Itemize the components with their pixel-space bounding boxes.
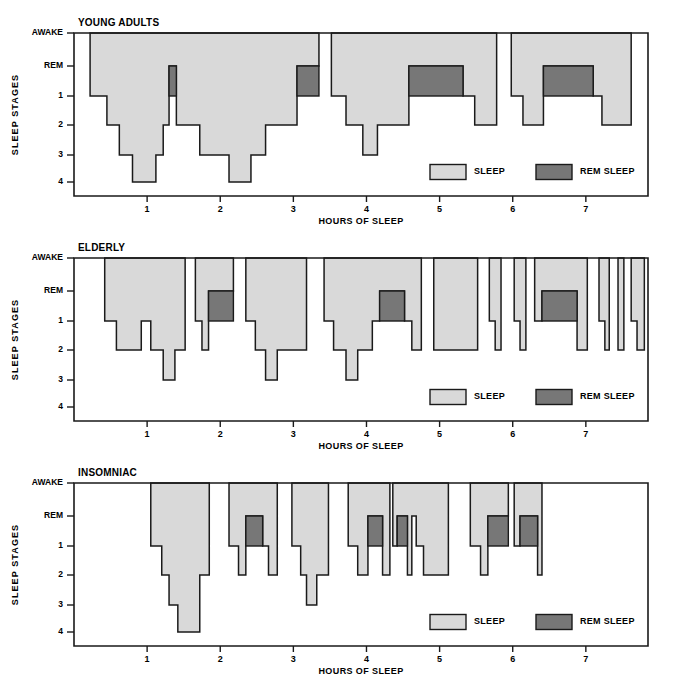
sleep-period-area [434,258,478,350]
x-tick-label-5: 5 [437,654,442,664]
rem-sleep-block [246,516,263,546]
rem-sleep-block [542,291,577,321]
hypnogram-panel-young-adults: AWAKEREM12341234567HOURS OF SLEEPSLEEP S… [0,0,673,225]
x-tick-label-5: 5 [437,204,442,214]
y-axis-title: SLEEP STAGES [10,524,20,605]
x-axis-title: HOURS OF SLEEP [318,666,403,675]
rem-sleep-block [488,516,508,546]
legend-swatch-sleep [430,165,466,180]
sleep-period-area [489,258,501,350]
sleep-period-area [514,258,526,350]
sleep-period-area [631,258,644,350]
legend-label-sleep: SLEEP [474,616,505,626]
legend-label-sleep: SLEEP [474,391,505,401]
hypnogram-chart-0: AWAKEREM12341234567HOURS OF SLEEPSLEEP S… [0,0,673,225]
hypnogram-chart-2: AWAKEREM12341234567HOURS OF SLEEPSLEEP S… [0,450,673,675]
x-tick-label-4: 4 [364,204,369,214]
rem-sleep-block [397,516,407,546]
legend-swatch-rem-sleep [536,615,572,630]
x-tick-label-6: 6 [510,654,515,664]
y-tick-label-3: 3 [58,599,63,609]
y-tick-label-3: 3 [58,374,63,384]
y-tick-label-4: 4 [58,401,63,411]
x-tick-label-7: 7 [583,204,588,214]
x-tick-label-2: 2 [218,429,223,439]
x-tick-label-7: 7 [583,429,588,439]
x-tick-label-6: 6 [510,204,515,214]
y-tick-label-1: 1 [58,540,63,550]
hypnogram-panel-insomniac: AWAKEREM12341234567HOURS OF SLEEPSLEEP S… [0,450,673,675]
rem-sleep-block [520,516,538,546]
x-tick-label-7: 7 [583,654,588,664]
legend-swatch-rem-sleep [536,390,572,405]
x-tick-label-3: 3 [291,654,296,664]
rem-sleep-block [409,66,463,96]
y-tick-label-4: 4 [58,176,63,186]
y-tick-label-rem: REM [44,285,63,295]
sleep-period-area [599,258,609,350]
y-tick-label-1: 1 [58,315,63,325]
y-tick-label-3: 3 [58,149,63,159]
rem-sleep-block [543,66,593,96]
y-tick-label-awake: AWAKE [32,27,64,37]
sleep-period-area [246,258,307,380]
x-tick-label-6: 6 [510,429,515,439]
y-tick-label-awake: AWAKE [32,252,64,262]
x-tick-label-3: 3 [291,204,296,214]
sleep-period-area [151,483,209,632]
y-tick-label-2: 2 [58,119,63,129]
sleep-period-area [90,33,319,182]
legend-label-rem-sleep: REM SLEEP [580,391,635,401]
sleep-stages-figure: AWAKEREM12341234567HOURS OF SLEEPSLEEP S… [0,0,673,676]
x-axis-title: HOURS OF SLEEP [318,216,403,225]
rem-sleep-block [209,291,234,321]
legend-label-rem-sleep: REM SLEEP [580,166,635,176]
y-tick-label-rem: REM [44,60,63,70]
x-tick-label-2: 2 [218,204,223,214]
x-tick-label-4: 4 [364,654,369,664]
rem-sleep-block [380,291,405,321]
x-tick-label-1: 1 [145,654,150,664]
x-tick-label-1: 1 [145,204,150,214]
y-tick-label-awake: AWAKE [32,477,64,487]
y-tick-label-2: 2 [58,569,63,579]
y-tick-label-2: 2 [58,344,63,354]
panel-title: YOUNG ADULTS [78,17,159,28]
legend-swatch-sleep [430,390,466,405]
x-tick-label-3: 3 [291,429,296,439]
y-tick-label-1: 1 [58,90,63,100]
y-tick-label-4: 4 [58,626,63,636]
sleep-period-area [324,258,421,380]
x-tick-label-4: 4 [364,429,369,439]
rem-sleep-block [169,66,176,96]
legend-swatch-sleep [430,615,466,630]
x-axis-title: HOURS OF SLEEP [318,441,403,450]
sleep-period-area [618,258,624,350]
x-tick-label-2: 2 [218,654,223,664]
panel-title: INSOMNIAC [78,467,137,478]
rem-sleep-block [368,516,383,546]
sleep-period-area [292,483,329,605]
hypnogram-chart-1: AWAKEREM12341234567HOURS OF SLEEPSLEEP S… [0,225,673,450]
x-tick-label-5: 5 [437,429,442,439]
x-tick-label-1: 1 [145,429,150,439]
rem-sleep-block [297,66,319,96]
legend-label-sleep: SLEEP [474,166,505,176]
y-axis-title: SLEEP STAGES [10,299,20,380]
hypnogram-panel-elderly: AWAKEREM12341234567HOURS OF SLEEPSLEEP S… [0,225,673,450]
y-axis-title: SLEEP STAGES [10,74,20,155]
panel-title: ELDERLY [78,242,125,253]
legend-swatch-rem-sleep [536,165,572,180]
y-tick-label-rem: REM [44,510,63,520]
sleep-period-area [105,258,185,380]
legend-label-rem-sleep: REM SLEEP [580,616,635,626]
